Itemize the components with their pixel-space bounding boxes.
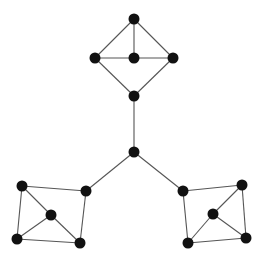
node-right-br bbox=[241, 233, 252, 244]
node-right-bl bbox=[183, 238, 194, 249]
edge-right-tl-right-bl bbox=[183, 191, 188, 243]
edge-top-left-top-bottom bbox=[95, 58, 134, 96]
node-top-left bbox=[90, 53, 101, 64]
edge-left-tr-left-br bbox=[80, 191, 86, 243]
node-top-bottom bbox=[129, 91, 140, 102]
edge-hub-right-tl bbox=[134, 152, 183, 191]
node-left-tl bbox=[17, 181, 28, 192]
edge-hub-left-tr bbox=[86, 152, 134, 191]
edge-left-center-left-br bbox=[51, 215, 80, 243]
graph-diagram bbox=[0, 0, 261, 260]
node-top-center bbox=[129, 53, 140, 64]
node-top-right bbox=[168, 53, 179, 64]
node-left-center bbox=[46, 210, 57, 221]
edge-right-bl-right-br bbox=[188, 238, 246, 243]
node-right-center bbox=[208, 209, 219, 220]
node-left-bl bbox=[12, 234, 23, 245]
node-left-br bbox=[75, 238, 86, 249]
edge-left-tl-left-tr bbox=[22, 186, 86, 191]
edge-right-center-right-br bbox=[213, 214, 246, 238]
node-left-tr bbox=[81, 186, 92, 197]
node-layer bbox=[12, 14, 252, 249]
edge-top-top-top-left bbox=[95, 19, 134, 58]
node-right-tr bbox=[237, 180, 248, 191]
edge-right-tl-right-tr bbox=[183, 185, 242, 191]
edge-left-tl-left-center bbox=[22, 186, 51, 215]
edge-left-center-left-bl bbox=[17, 215, 51, 239]
node-hub bbox=[129, 147, 140, 158]
edge-right-tr-right-center bbox=[213, 185, 242, 214]
edge-left-tl-left-bl bbox=[17, 186, 22, 239]
edge-top-top-top-right bbox=[134, 19, 173, 58]
edge-left-bl-left-br bbox=[17, 239, 80, 243]
node-right-tl bbox=[178, 186, 189, 197]
edge-top-right-top-bottom bbox=[134, 58, 173, 96]
edge-right-tr-right-br bbox=[242, 185, 246, 238]
edge-right-center-right-bl bbox=[188, 214, 213, 243]
node-top-top bbox=[129, 14, 140, 25]
